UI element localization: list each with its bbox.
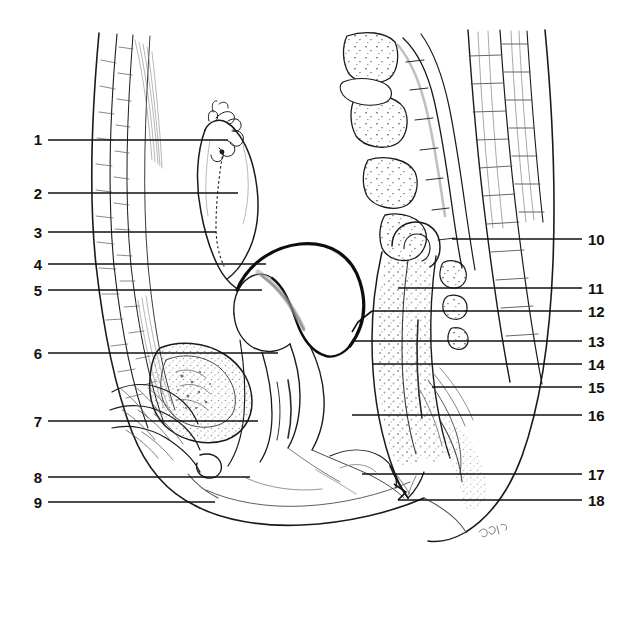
perineum-contour: [188, 474, 424, 525]
label-number-1[interactable]: 1: [22, 132, 42, 147]
label-number-10[interactable]: 10: [588, 232, 605, 247]
urinary-bladder: [234, 244, 364, 357]
label-number-2[interactable]: 2: [22, 186, 42, 201]
label-number-9[interactable]: 9: [22, 495, 42, 510]
label-number-14[interactable]: 14: [588, 357, 605, 372]
label-number-11[interactable]: 11: [588, 281, 604, 296]
label-number-6[interactable]: 6: [22, 346, 42, 361]
rectum: [372, 222, 450, 498]
drawing-ink: [92, 30, 554, 542]
ovary-and-tube: [208, 101, 243, 162]
label-number-4[interactable]: 4: [22, 257, 42, 272]
label-number-16[interactable]: 16: [588, 408, 605, 423]
sacrum-vertebrae: [340, 33, 475, 270]
label-number-13[interactable]: 13: [588, 334, 605, 349]
diagram-canvas: 1 2 3 4 5 6 7 8 9 10 11 12 13 14 15 16 1…: [0, 0, 638, 617]
back-muscles: [468, 30, 544, 384]
label-number-5[interactable]: 5: [22, 283, 42, 298]
label-number-3[interactable]: 3: [22, 225, 42, 240]
label-number-8[interactable]: 8: [22, 470, 42, 485]
label-number-15[interactable]: 15: [588, 380, 605, 395]
pubic-symphysis: [150, 343, 252, 443]
label-number-7[interactable]: 7: [22, 414, 42, 429]
label-number-12[interactable]: 12: [588, 304, 605, 319]
signature-mark: [479, 524, 507, 536]
uterus: [198, 120, 258, 288]
coccyx: [440, 261, 468, 350]
posterior-body-contour: [424, 30, 554, 542]
anatomy-figure: [0, 0, 638, 617]
label-number-18[interactable]: 18: [588, 493, 605, 508]
leader-lines: [48, 140, 582, 502]
label-number-17[interactable]: 17: [588, 467, 605, 482]
